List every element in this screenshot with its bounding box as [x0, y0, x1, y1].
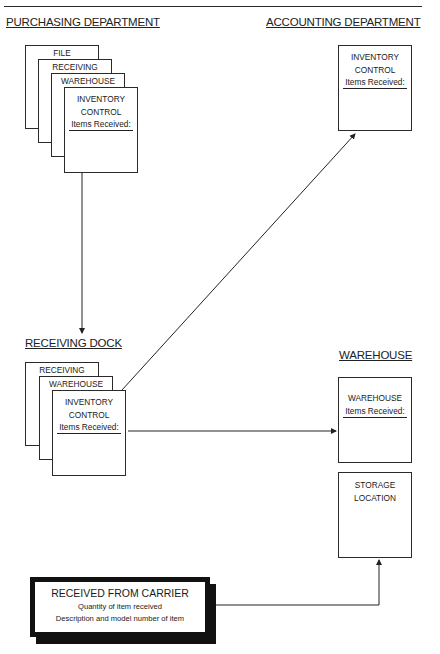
purchasing-inventory-control-copy: INVENTORY CONTROL Items Received: — [64, 87, 138, 173]
accounting-inventory-control-copy: INVENTORY CONTROL Items Received: — [338, 45, 412, 131]
carrier-line-description: Description and model number of item — [35, 613, 205, 625]
card-label: WAREHOUSE — [52, 75, 124, 88]
card-label-line2: CONTROL — [53, 409, 125, 422]
card-label-line1: INVENTORY — [339, 51, 411, 64]
card-label: RECEIVING — [26, 364, 98, 377]
warehouse-copy: WAREHOUSE Items Received: — [338, 377, 412, 463]
card-label-line1: STORAGE — [339, 479, 411, 492]
purchasing-department-title: PURCHASING DEPARTMENT — [6, 16, 160, 28]
card-label-line2: CONTROL — [339, 64, 411, 77]
arrow-dock-to-accounting — [122, 134, 355, 390]
accounting-department-title: ACCOUNTING DEPARTMENT — [266, 16, 420, 28]
dock-inventory-control-copy: INVENTORY CONTROL Items Received: — [52, 390, 126, 476]
warehouse-title: WAREHOUSE — [339, 349, 412, 361]
items-received-label: Items Received: — [343, 405, 406, 418]
card-label: WAREHOUSE — [339, 392, 411, 405]
card-label: RECEIVING — [39, 61, 111, 74]
card-label: FILE — [26, 47, 98, 60]
arrow-carrier-to-storage — [210, 560, 379, 605]
items-received-label: Items Received: — [69, 118, 132, 131]
carrier-line-quantity: Quantity of item received — [35, 601, 205, 613]
card-label: WAREHOUSE — [40, 378, 112, 391]
received-from-carrier-box: RECEIVED FROM CARRIER Quantity of item r… — [30, 577, 210, 637]
card-label-line2: CONTROL — [65, 106, 137, 119]
card-label-line2: LOCATION — [339, 492, 411, 505]
items-received-label: Items Received: — [57, 421, 120, 434]
card-label-line1: INVENTORY — [65, 93, 137, 106]
receiving-dock-title: RECEIVING DOCK — [25, 337, 122, 349]
carrier-title: RECEIVED FROM CARRIER — [35, 586, 205, 601]
storage-location-box: STORAGE LOCATION — [338, 472, 412, 558]
items-received-label: Items Received: — [343, 76, 406, 89]
card-label-line1: INVENTORY — [53, 396, 125, 409]
